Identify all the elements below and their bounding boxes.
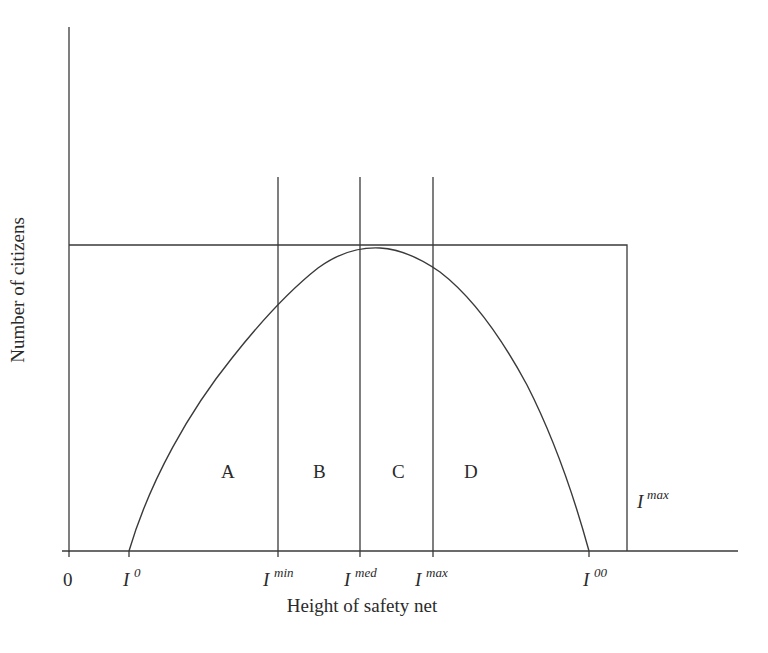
preference-curve — [129, 248, 589, 551]
region-c-label: C — [392, 461, 405, 482]
region-d-label: D — [464, 461, 478, 482]
tick-label-imed: I med — [343, 565, 377, 590]
svg-text:med: med — [355, 565, 377, 580]
svg-text:0: 0 — [134, 565, 141, 580]
svg-text:I: I — [582, 569, 591, 590]
cap-imax-label: I max — [636, 487, 669, 512]
tick-label-i0: I 0 — [122, 565, 141, 590]
origin-label: 0 — [63, 569, 73, 590]
tick-label-imin: I min — [262, 565, 294, 590]
y-axis-title: Number of citizens — [7, 217, 28, 363]
svg-text:max: max — [426, 565, 448, 580]
tick-label-imax: I max — [414, 565, 448, 590]
x-axis-ticks — [69, 551, 589, 557]
svg-text:I: I — [122, 569, 131, 590]
svg-text:I: I — [636, 491, 645, 512]
region-b-label: B — [313, 461, 326, 482]
uniform-distribution-box — [69, 245, 627, 551]
svg-text:00: 00 — [594, 565, 608, 580]
svg-text:I: I — [262, 569, 271, 590]
safety-net-diagram: A B C D I max 0 I 0 I min I med I max I … — [0, 0, 768, 653]
tick-label-i00: I 00 — [582, 565, 608, 590]
svg-text:max: max — [647, 487, 669, 502]
svg-text:min: min — [274, 565, 294, 580]
x-axis-title: Height of safety net — [287, 595, 438, 616]
region-a-label: A — [221, 461, 235, 482]
svg-text:I: I — [343, 569, 352, 590]
svg-text:I: I — [414, 569, 423, 590]
